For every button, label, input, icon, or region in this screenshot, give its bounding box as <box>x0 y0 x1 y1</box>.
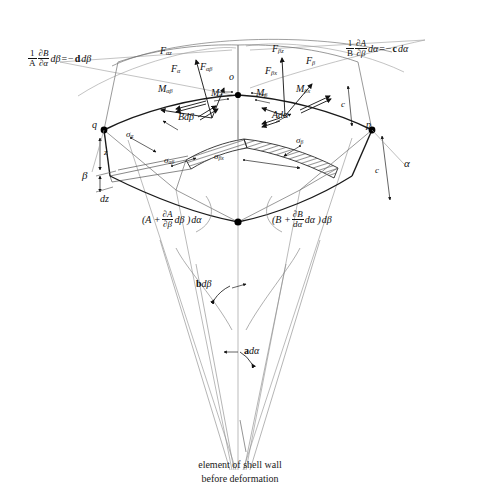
moment-label-beta: Mβ <box>256 88 267 99</box>
bdbeta-tail: dβ <box>202 278 212 289</box>
bottom-right-open: (B + <box>272 215 291 225</box>
axis-label-beta: β <box>82 170 87 181</box>
moment-label-alpha-beta: Mαβ <box>158 84 173 95</box>
point-label-p: p <box>366 120 371 130</box>
left-formula-bold-d: d <box>75 54 81 64</box>
force-label-alpha: Fα <box>171 64 180 75</box>
caption-line-1: element of shell wall <box>140 458 340 472</box>
shell-wall-hatched-band <box>186 139 338 178</box>
dimension-label-dz: dz <box>100 194 109 204</box>
edge-label-adalpha: Adα <box>272 110 288 120</box>
left-formula-den-partial: ∂α <box>38 59 50 68</box>
force-beta-x-subscript: βx <box>271 69 277 76</box>
sigma-alpha-subscript: α <box>130 133 133 139</box>
caption-leader <box>240 420 246 452</box>
dimension-label-c-lower: c <box>375 166 379 175</box>
dimension-label-c-upper: c <box>341 100 345 109</box>
bottom-left-den: ∂β <box>162 220 174 229</box>
force-label-beta: Fβ <box>306 56 315 67</box>
bottom-right-formula: (B + ∂B dα dα ) dβ <box>272 210 332 229</box>
angle-label-bdbeta: bdβ <box>196 279 212 289</box>
vertex-o <box>235 92 241 98</box>
moment-beta-x-subscript: βx <box>304 87 310 94</box>
right-formula-sign: − <box>386 44 392 54</box>
force-label-alpha-z: Fαz <box>160 46 172 57</box>
dimension-label-z: z <box>104 148 108 157</box>
force-label-beta-z: Fβz <box>272 44 284 55</box>
c-dimension-lines <box>348 86 390 200</box>
left-formula-equals: = <box>61 54 67 64</box>
force-beta-z-subscript: βz <box>278 47 284 54</box>
moment-beta-subscript: β <box>264 91 267 98</box>
force-alpha-beta-subscript: αβ <box>206 65 212 72</box>
right-formula-den-partial: ∂β <box>355 49 367 58</box>
angle-label-adalpha: adα <box>244 346 259 356</box>
moment-alpha-beta-subscript: αβ <box>166 87 172 94</box>
diagram-vector-layer <box>0 0 480 489</box>
bottom-left-mid: dβ ) <box>174 215 190 225</box>
axis-label-alpha: α <box>404 158 410 169</box>
left-formula-tail: dβ <box>50 54 60 64</box>
left-formula-den: A <box>28 59 37 68</box>
bottom-left-formula: (A + ∂A ∂β dβ ) dα <box>142 210 202 229</box>
force-beta-subscript: β <box>312 59 315 66</box>
shell-element-diagram: 1 A ∂B ∂α dβ = − d dβ 1 B ∂A ∂β dα <box>0 0 480 489</box>
moment-label-beta-x: Mβx <box>296 84 310 95</box>
point-label-o: o <box>229 72 234 82</box>
lower-envelope-lines <box>160 240 320 470</box>
right-formula: 1 B ∂A ∂β dα = − c dα <box>346 38 408 58</box>
point-label-q: q <box>92 120 97 130</box>
stress-label-sigma-alpha: σα <box>126 130 133 140</box>
moment-alpha-subscript: α <box>219 91 222 98</box>
force-label-alpha-beta: Fαβ <box>200 62 212 73</box>
edge-label-bdbeta: Bdβ <box>178 112 194 122</box>
right-formula-tail: dα <box>368 44 378 54</box>
left-formula-rhs-tail: dβ <box>81 54 91 64</box>
adalpha-tail: dα <box>249 345 259 356</box>
force-alpha-z-subscript: αz <box>166 49 172 56</box>
caption-line-2: before deformation <box>140 472 340 486</box>
sigma-alpha-beta-subscript: αβ <box>168 159 174 165</box>
right-formula-rhs-tail: dα <box>398 44 408 54</box>
moment-label-alpha: Mα <box>211 88 223 99</box>
bottom-left-open: (A + <box>142 215 161 225</box>
figure-caption: element of shell wall before deformation <box>140 458 340 485</box>
force-alpha-subscript: α <box>177 67 180 74</box>
stress-label-sigma-beta: σβ <box>296 136 303 146</box>
right-formula-equals: = <box>379 44 385 54</box>
bottom-right-close: dβ <box>322 215 332 225</box>
left-formula: 1 A ∂B ∂α dβ = − d dβ <box>28 48 91 68</box>
bottom-right-mid: dα ) <box>305 215 321 225</box>
sigma-beta-subscript: β <box>300 139 303 145</box>
sigma-beta-x-subscript: βx <box>218 155 223 161</box>
right-formula-bold-c: c <box>393 44 397 54</box>
right-formula-den: B <box>346 49 354 58</box>
stress-label-sigma-alpha-beta: σαβ <box>164 156 174 166</box>
vertex-bottom <box>234 218 241 225</box>
left-formula-sign: − <box>68 54 74 64</box>
force-label-beta-x: Fβx <box>265 66 277 77</box>
bottom-left-close: dα <box>191 215 201 225</box>
radial-convergence-lines <box>128 120 352 470</box>
stress-label-sigma-beta-x: σβx <box>214 152 224 162</box>
bottom-right-den: dα <box>292 220 304 229</box>
